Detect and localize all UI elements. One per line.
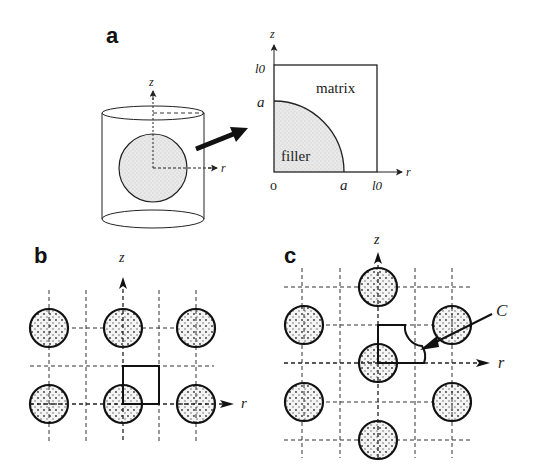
tick-l0-r: l0: [372, 178, 383, 193]
origin-label: o: [270, 178, 277, 193]
unit-cell-diagram: z r l0 a o a l0 matrix filler: [255, 27, 411, 193]
tick-a-z: a: [257, 94, 265, 110]
matrix-label: matrix: [316, 80, 356, 96]
panel-a-label: a: [106, 23, 119, 48]
panel-c-r-label: r: [498, 354, 505, 371]
unit-cell-r-label: r: [406, 165, 411, 179]
cylinder-r-label: r: [221, 161, 226, 175]
composite-figure: a z r: [0, 0, 536, 476]
panel-b-r-label: r: [241, 395, 247, 411]
panel-c: c z r: [284, 232, 508, 459]
panel-a: a z r: [102, 23, 411, 228]
cylinder: z r: [102, 75, 226, 228]
filler-label: filler: [281, 148, 310, 164]
panel-c-label: c: [284, 243, 296, 268]
panel-b: b z r: [30, 243, 247, 442]
panel-b-z-label: z: [118, 250, 125, 265]
tick-l0-z: l0: [255, 61, 266, 76]
unit-cell-z-label: z: [269, 27, 275, 41]
cylinder-z-label: z: [148, 75, 154, 89]
panel-c-z-label: z: [373, 232, 380, 247]
callout-label: C: [496, 301, 508, 320]
tick-a-r: a: [340, 177, 348, 193]
panel-b-label: b: [34, 243, 47, 268]
